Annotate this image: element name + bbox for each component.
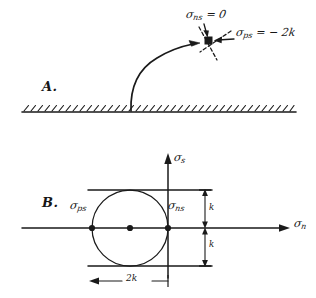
subscript-n: n	[300, 222, 307, 231]
subscript-ps-point: ps	[76, 204, 87, 213]
slip-line-curve	[131, 44, 193, 111]
sigma-s-axis-arrowhead	[164, 153, 171, 164]
panel-a-letter: A.	[42, 80, 58, 93]
relation-equals-zero: = 0	[205, 8, 227, 21]
stress-point-marker	[205, 37, 213, 45]
stress-figure	[0, 0, 316, 298]
label-sigma-ns-equals-zero: σns = 0	[186, 9, 226, 22]
subscript-s: s	[180, 156, 186, 165]
label-sigma-ns-point: σns	[168, 200, 185, 213]
subscript-ps: ps	[242, 31, 253, 40]
dimension-2k-arrowhead-left	[89, 278, 99, 285]
label-sigma-n-axis: σn	[294, 218, 307, 231]
label-dimension-k-lower: k	[209, 240, 214, 249]
subscript-ns: ns	[192, 13, 203, 22]
panel-b-letter: B.	[42, 196, 59, 209]
sigma-n-axis-arrowhead	[279, 224, 290, 232]
circle-center-dot	[127, 225, 133, 231]
panel-b-group	[22, 153, 290, 287]
subscript-ns-point: ns	[174, 204, 185, 213]
label-sigma-ps-equals-minus-2k: σps = − 2k	[236, 27, 295, 40]
sigma-ns-point-dot	[165, 225, 171, 231]
relation-equals-minus-2k: = − 2k	[255, 26, 296, 39]
label-sigma-s-axis: σs	[174, 152, 186, 165]
label-sigma-ps-point: σps	[70, 200, 87, 213]
ground-hatching	[24, 106, 294, 112]
leader-sigma-ns-arrowhead	[203, 30, 209, 37]
label-dimension-2k: 2k	[126, 274, 137, 283]
label-dimension-k-upper: k	[209, 203, 214, 212]
stress-element-cross	[199, 27, 231, 60]
sigma-ps-point-dot	[89, 225, 95, 231]
